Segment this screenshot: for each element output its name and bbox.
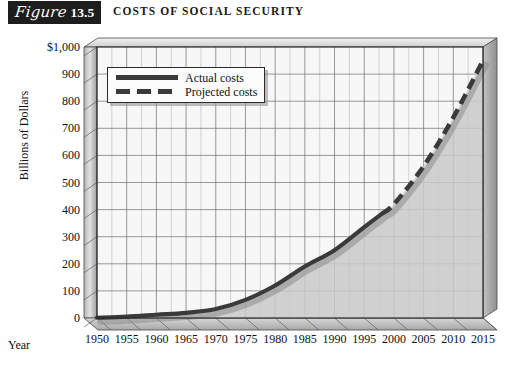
legend-label-projected: Projected costs [185, 86, 257, 98]
plot-box-left-wall [84, 47, 97, 318]
solid-line-swatch-icon [116, 75, 178, 80]
legend-item-actual: Actual costs [116, 70, 244, 85]
plot-box-right-face [483, 38, 497, 318]
legend-label-actual: Actual costs [185, 72, 244, 84]
plot-box-top-face [84, 38, 497, 47]
legend-item-projected: Projected costs [116, 84, 257, 99]
dashed-line-swatch-icon [116, 89, 178, 94]
chart-plot-area [0, 0, 510, 368]
chart-legend: Actual costs Projected costs [107, 67, 265, 103]
